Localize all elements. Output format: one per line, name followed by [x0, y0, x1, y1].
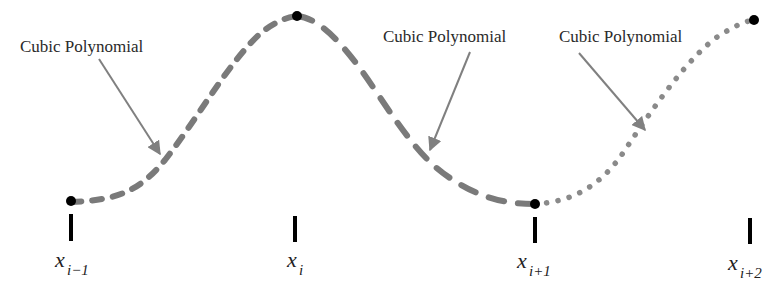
knot-point-3	[530, 199, 540, 209]
annotation-label-3: Cubic Polynomial	[559, 27, 683, 46]
annotation-label-1: Cubic Polynomial	[20, 37, 144, 56]
svg-text:i: i	[299, 262, 303, 278]
knot-label-2: x i	[286, 247, 303, 278]
knot-point-1	[66, 196, 76, 206]
svg-text:x: x	[286, 247, 297, 272]
svg-text:x: x	[54, 247, 65, 272]
svg-text:x: x	[727, 250, 738, 275]
spline-segment-3	[535, 20, 754, 204]
svg-text:x: x	[516, 248, 527, 273]
svg-text:i+2: i+2	[740, 265, 762, 281]
knot-label-1: x i−1	[54, 247, 89, 278]
svg-text:i−1: i−1	[67, 262, 89, 278]
spline-diagram: Cubic Polynomial Cubic Polynomial Cubic …	[0, 0, 783, 296]
annotation-arrow-2	[430, 52, 470, 150]
annotation-arrow-3	[579, 53, 645, 130]
knot-point-4	[749, 15, 759, 25]
annotation-arrow-1	[99, 59, 160, 154]
knot-point-2	[292, 11, 302, 21]
knot-label-4: x i+2	[727, 250, 762, 281]
svg-text:i+1: i+1	[529, 263, 551, 279]
knot-label-3: x i+1	[516, 248, 551, 279]
annotation-label-2: Cubic Polynomial	[383, 27, 507, 46]
